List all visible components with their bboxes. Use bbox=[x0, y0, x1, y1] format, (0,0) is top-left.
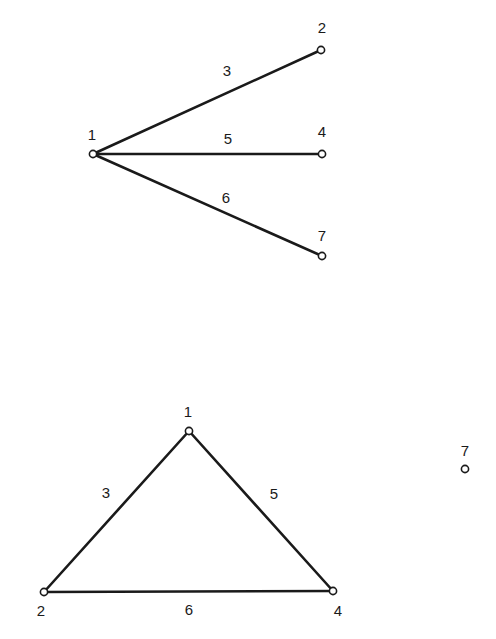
edge-label: 3 bbox=[223, 62, 231, 79]
edge-label: 6 bbox=[185, 601, 193, 618]
edge-6 bbox=[93, 154, 322, 256]
edge-label: 3 bbox=[102, 484, 110, 501]
triangle-graph: 3561247 bbox=[37, 403, 469, 619]
node-2 bbox=[40, 588, 47, 595]
node-1 bbox=[185, 427, 192, 434]
node-label: 1 bbox=[184, 403, 192, 420]
node-label: 4 bbox=[334, 602, 342, 619]
node-7 bbox=[318, 252, 325, 259]
edge-3 bbox=[93, 50, 321, 154]
edge-label: 6 bbox=[222, 189, 230, 206]
edge-3 bbox=[44, 431, 189, 592]
node-label: 2 bbox=[318, 19, 326, 36]
node-label: 1 bbox=[88, 126, 96, 143]
edge-label: 5 bbox=[270, 485, 278, 502]
node-label: 2 bbox=[37, 602, 45, 619]
node-4 bbox=[329, 587, 336, 594]
node-4 bbox=[318, 150, 325, 157]
node-label: 7 bbox=[461, 442, 469, 459]
node-label: 7 bbox=[318, 227, 326, 244]
star-graph: 3561247 bbox=[88, 19, 326, 260]
node-2 bbox=[317, 46, 324, 53]
node-7 bbox=[461, 465, 468, 472]
edge-5 bbox=[189, 431, 333, 591]
edge-label: 5 bbox=[224, 130, 232, 147]
node-1 bbox=[89, 150, 96, 157]
node-label: 4 bbox=[318, 123, 326, 140]
edge-6 bbox=[44, 591, 333, 592]
graph-diagram: 35612473561247 bbox=[0, 0, 496, 639]
